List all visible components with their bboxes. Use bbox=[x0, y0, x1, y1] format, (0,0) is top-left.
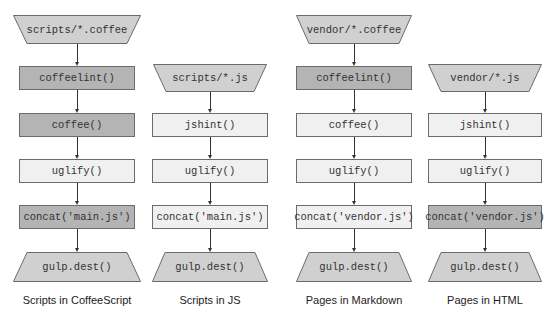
node-label: gulp.dest() bbox=[42, 261, 111, 273]
pipeline-caption: Pages in HTML bbox=[415, 294, 555, 306]
node-label: vendor/*.coffee bbox=[307, 24, 402, 36]
io-node-vendor-js: vendor/*.js bbox=[428, 64, 542, 92]
step-node-uglify: uglify() bbox=[428, 159, 542, 183]
node-label: concat('vendor.js') bbox=[425, 211, 545, 223]
node-label: vendor/*.js bbox=[450, 72, 519, 84]
node-label: gulp.dest() bbox=[450, 261, 519, 273]
node-label: gulp.dest() bbox=[175, 261, 244, 273]
node-label: jshint() bbox=[460, 119, 510, 131]
connector-arrow bbox=[485, 137, 486, 156]
connector-arrow bbox=[485, 183, 486, 202]
connector-arrow bbox=[485, 92, 486, 110]
step-node-jshint: jshint() bbox=[428, 113, 542, 137]
gulp-pipelines-diagram: scripts/*.coffeecoffeelint()coffee()ugli… bbox=[0, 0, 559, 318]
node-label: uglify() bbox=[460, 165, 510, 177]
node-label: scripts/*.coffee bbox=[27, 24, 128, 36]
step-node-concat-vendor-js: concat('vendor.js') bbox=[428, 205, 542, 229]
node-label: scripts/*.js bbox=[172, 72, 248, 84]
node-label: gulp.dest() bbox=[319, 261, 388, 273]
connector-arrow bbox=[485, 229, 486, 249]
io-node-gulp-dest: gulp.dest() bbox=[428, 252, 542, 282]
